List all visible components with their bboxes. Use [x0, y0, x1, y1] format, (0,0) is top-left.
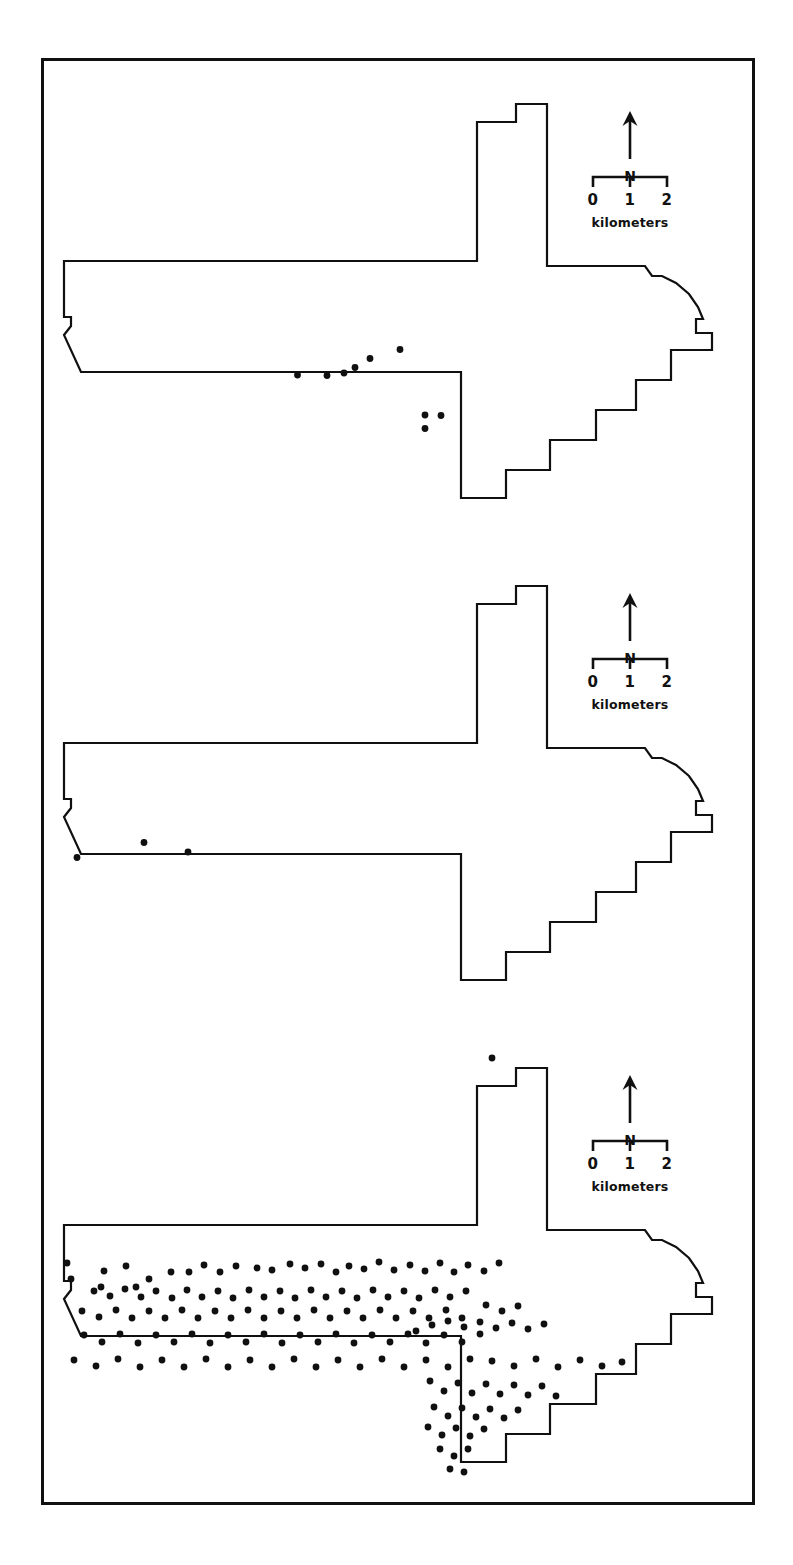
site-point: [341, 370, 348, 377]
site-point: [459, 1339, 466, 1346]
site-point: [302, 1265, 309, 1272]
site-point: [225, 1332, 232, 1339]
site-point: [195, 1315, 202, 1322]
site-point: [461, 1469, 468, 1476]
site-point: [129, 1315, 136, 1322]
site-point: [215, 1288, 222, 1295]
site-point: [254, 1265, 261, 1272]
site-point: [483, 1381, 490, 1388]
site-point: [247, 1357, 254, 1364]
site-point: [413, 1328, 420, 1335]
site-point: [228, 1315, 235, 1322]
site-point: [333, 1331, 340, 1338]
site-point: [469, 1390, 476, 1397]
scale-units-label: kilometers: [591, 215, 668, 230]
region-boundary-outline: [64, 104, 712, 498]
map-legend: N012kilometers: [588, 111, 673, 230]
site-point: [461, 1324, 468, 1331]
site-point: [297, 1332, 304, 1339]
site-point: [354, 1295, 361, 1302]
site-point: [441, 1332, 448, 1339]
site-point: [370, 1287, 377, 1294]
scale-tick-label-1: 1: [625, 1155, 636, 1173]
site-point: [291, 1356, 298, 1363]
site-point: [169, 1295, 176, 1302]
site-point: [357, 1364, 364, 1371]
region-boundary-outline: [64, 1068, 712, 1462]
site-point: [101, 1268, 108, 1275]
site-point: [387, 1339, 394, 1346]
site-point: [171, 1339, 178, 1346]
site-point: [107, 1293, 114, 1300]
site-point: [146, 1276, 153, 1283]
site-point: [278, 1308, 285, 1315]
site-point: [443, 1307, 450, 1314]
site-point: [71, 1357, 78, 1364]
site-point: [423, 1340, 430, 1347]
site-point: [489, 1358, 496, 1365]
site-point: [199, 1294, 206, 1301]
site-point: [311, 1307, 318, 1314]
site-point: [445, 1364, 452, 1371]
site-point: [437, 1260, 444, 1267]
site-point: [243, 1339, 250, 1346]
site-point: [308, 1287, 315, 1294]
site-point: [465, 1446, 472, 1453]
site-point: [333, 1269, 340, 1276]
site-point: [393, 1315, 400, 1322]
site-point: [277, 1288, 284, 1295]
site-point: [324, 372, 331, 379]
site-point: [577, 1357, 584, 1364]
site-points-layer: [64, 1055, 626, 1476]
figure-frame-border: N012kilometers N012kilometers N012kilome…: [41, 58, 755, 1505]
site-point: [499, 1308, 506, 1315]
site-point: [377, 1307, 384, 1314]
site-point: [481, 1268, 488, 1275]
site-point: [369, 1332, 376, 1339]
site-point: [525, 1326, 532, 1333]
site-point: [233, 1263, 240, 1270]
map-legend: N012kilometers: [588, 1075, 673, 1194]
site-point: [405, 1331, 412, 1338]
site-point: [496, 1260, 503, 1267]
site-point: [473, 1414, 480, 1421]
site-point: [361, 1266, 368, 1273]
site-point: [287, 1261, 294, 1268]
site-point: [619, 1359, 626, 1366]
site-point: [501, 1415, 508, 1422]
scale-tick-label-0: 0: [588, 1155, 599, 1173]
site-point: [318, 1261, 325, 1268]
site-point: [146, 1308, 153, 1315]
scale-units-label: kilometers: [591, 1179, 668, 1194]
site-point: [445, 1318, 452, 1325]
site-point: [407, 1262, 414, 1269]
site-point: [327, 1315, 334, 1322]
site-point: [451, 1453, 458, 1460]
map-panel-3: N012kilometers: [44, 1025, 758, 1507]
scale-tick-label-0: 0: [588, 673, 599, 691]
map-outline-svg: N012kilometers: [44, 61, 758, 543]
site-point: [64, 1260, 71, 1267]
site-point: [515, 1303, 522, 1310]
site-point: [122, 1286, 129, 1293]
site-point: [217, 1269, 224, 1276]
site-point: [489, 1055, 496, 1062]
site-point: [391, 1267, 398, 1274]
site-point: [113, 1307, 120, 1314]
site-point: [123, 1263, 130, 1270]
site-point: [135, 1340, 142, 1347]
site-point: [315, 1339, 322, 1346]
site-point: [385, 1294, 392, 1301]
site-point: [432, 1287, 439, 1294]
site-point: [483, 1302, 490, 1309]
site-point: [153, 1332, 160, 1339]
figure-root: N012kilometers N012kilometers N012kilome…: [0, 0, 793, 1565]
site-point: [379, 1356, 386, 1363]
site-point: [279, 1340, 286, 1347]
site-point: [422, 1268, 429, 1275]
site-point: [185, 849, 192, 856]
scale-tick-label-2: 2: [662, 191, 673, 209]
site-point: [463, 1288, 470, 1295]
site-point: [465, 1262, 472, 1269]
site-point: [555, 1364, 562, 1371]
